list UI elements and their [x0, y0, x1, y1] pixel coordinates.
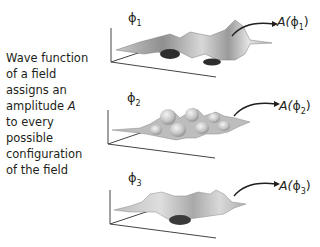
caption-line: to every	[6, 114, 106, 130]
surface-shadow	[169, 215, 191, 225]
configuration-panel-2: ϕ2 A(ϕ2)	[100, 82, 320, 164]
caption-line: Wave function	[6, 50, 106, 66]
phi-label-2: ϕ2	[127, 90, 141, 108]
caption-word: amplitude	[6, 99, 64, 113]
phi-label-3: ϕ3	[128, 170, 142, 188]
surface-shadow	[203, 59, 221, 66]
amplitude-label-1: A(ϕ1)	[277, 14, 309, 32]
configuration-panel-1: ϕ1 A(ϕ1)	[100, 2, 320, 84]
arrow-icon	[234, 103, 276, 116]
caption: Wave function of a field assigns an ampl…	[6, 50, 106, 178]
caption-line: of a field	[6, 66, 106, 82]
amplitude-label-2: A(ϕ2)	[279, 98, 311, 116]
phi-label-1: ϕ1	[128, 10, 142, 28]
amplitude-symbol: A	[68, 99, 76, 113]
configuration-panel-3: ϕ3 A(ϕ3)	[100, 162, 320, 244]
caption-line: configuration	[6, 146, 106, 162]
arrow-icon	[234, 183, 276, 196]
caption-line: of the field	[6, 162, 106, 178]
amplitude-label-3: A(ϕ3)	[279, 178, 311, 196]
caption-line: assigns an	[6, 82, 106, 98]
caption-line: possible	[6, 130, 106, 146]
caption-line: amplitude A	[6, 98, 106, 114]
surface-shadow	[160, 49, 180, 59]
